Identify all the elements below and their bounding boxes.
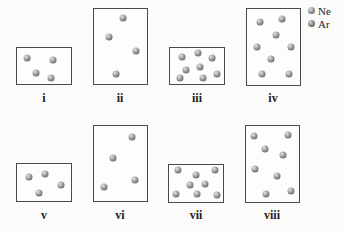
- gas-atom-icon: [251, 133, 258, 140]
- container-label: iv: [253, 91, 293, 106]
- gas-atom-icon: [200, 75, 207, 82]
- container-vi: [93, 125, 148, 202]
- container-label: ii: [100, 91, 140, 106]
- legend-label-ne: Ne: [318, 5, 331, 17]
- gas-atom-icon: [279, 16, 286, 23]
- gas-atom-icon: [288, 188, 295, 195]
- gas-atom-icon: [33, 70, 40, 77]
- gas-atom-icon: [173, 191, 180, 198]
- container-label: iii: [177, 91, 217, 106]
- gas-atom-icon: [50, 57, 57, 64]
- argon-atom-icon: [308, 20, 315, 27]
- legend-item-ne: Ne: [308, 4, 331, 17]
- gas-atom-icon: [120, 15, 127, 22]
- gas-atom-icon: [288, 44, 295, 51]
- container-label: vii: [176, 208, 216, 223]
- gas-atom-icon: [187, 182, 194, 189]
- gas-atom-icon: [274, 173, 281, 180]
- gas-atom-icon: [132, 177, 139, 184]
- gas-atom-icon: [175, 167, 182, 174]
- legend-label-ar: Ar: [318, 18, 330, 30]
- gas-atom-icon: [254, 44, 261, 51]
- gas-atom-icon: [193, 172, 200, 179]
- container-label: v: [24, 208, 64, 223]
- neon-atom-icon: [308, 7, 315, 14]
- gas-atom-icon: [280, 152, 287, 159]
- legend: Ne Ar: [308, 4, 331, 30]
- container-label: i: [24, 91, 64, 106]
- gas-atom-icon: [106, 34, 113, 41]
- gas-atom-icon: [110, 155, 117, 162]
- gas-atom-icon: [285, 132, 292, 139]
- gas-atom-icon: [259, 71, 266, 78]
- container-i: [16, 47, 72, 85]
- gas-atom-icon: [197, 64, 204, 71]
- gas-atom-icon: [194, 191, 201, 198]
- gas-atom-icon: [209, 55, 216, 62]
- gas-atom-icon: [183, 67, 190, 74]
- container-label: viii: [252, 208, 292, 223]
- gas-atom-icon: [36, 190, 43, 197]
- gas-atom-icon: [262, 146, 269, 153]
- gas-atom-icon: [133, 48, 140, 55]
- gas-atom-icon: [179, 54, 186, 61]
- legend-item-ar: Ar: [308, 17, 331, 30]
- gas-atom-icon: [214, 192, 221, 199]
- gas-atom-icon: [286, 71, 293, 78]
- gas-atom-icon: [24, 55, 31, 62]
- gas-atom-icon: [252, 166, 259, 173]
- gas-atom-icon: [257, 19, 264, 26]
- gas-atom-icon: [26, 174, 33, 181]
- gas-atom-icon: [101, 184, 108, 191]
- gas-atom-icon: [42, 171, 49, 178]
- gas-atom-icon: [273, 32, 280, 39]
- gas-atom-icon: [177, 75, 184, 82]
- container-label: vi: [100, 208, 140, 223]
- gas-atom-icon: [195, 50, 202, 57]
- gas-atom-icon: [48, 75, 55, 82]
- gas-atom-icon: [268, 56, 275, 63]
- gas-atom-icon: [212, 167, 219, 174]
- gas-atom-icon: [263, 191, 270, 198]
- gas-atom-icon: [214, 71, 221, 78]
- gas-atom-icon: [129, 134, 136, 141]
- gas-atom-icon: [202, 181, 209, 188]
- gas-atom-icon: [58, 182, 65, 189]
- gas-atom-icon: [113, 71, 120, 78]
